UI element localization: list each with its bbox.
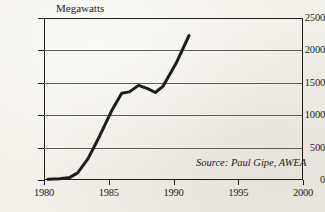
data-line-layer <box>0 0 325 212</box>
series-line-us-wind-capacity <box>48 36 189 180</box>
wind-capacity-line-chart: Megawatts 05001000150020002500 198019851… <box>0 0 325 212</box>
source-annotation: Source: Paul Gipe, AWEA <box>196 157 306 169</box>
